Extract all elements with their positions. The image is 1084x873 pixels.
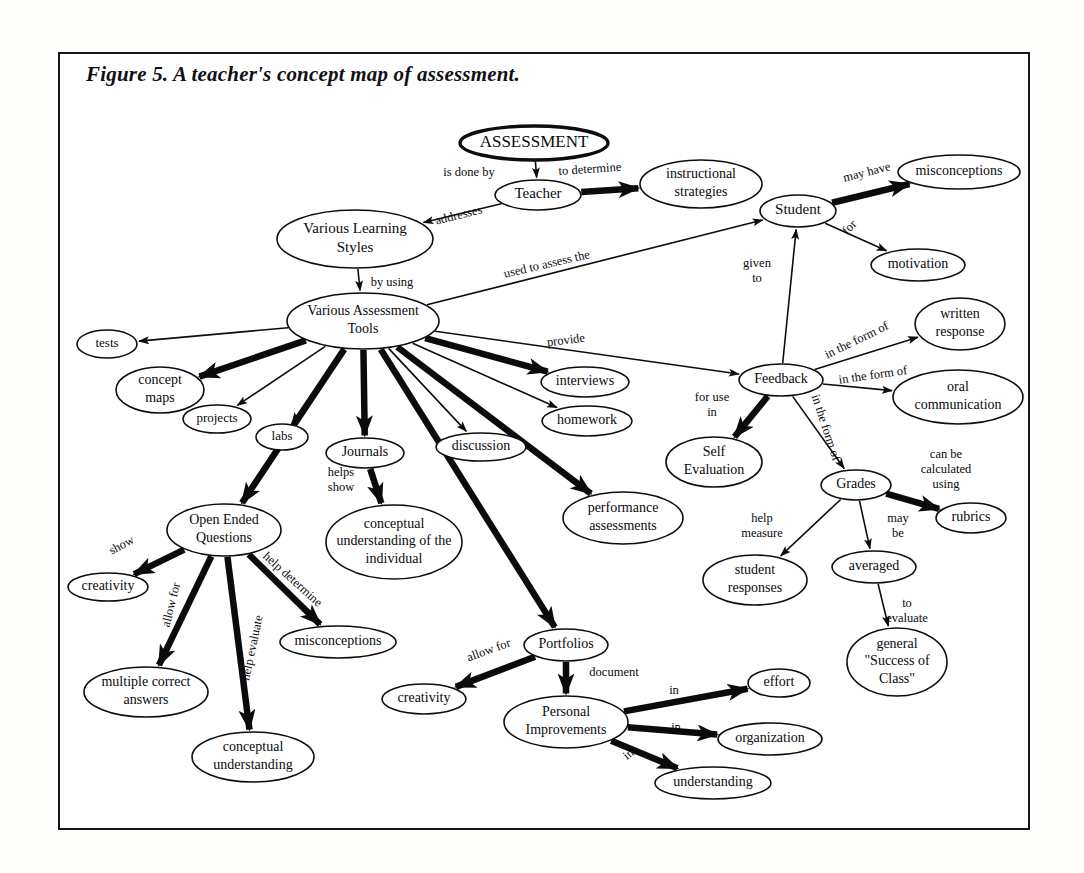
- node-label-line: Evaluation: [684, 462, 745, 477]
- edges-layer: [134, 161, 939, 768]
- edge-label-teacher-to-various_learning_styles: addresses: [434, 202, 484, 227]
- node-tests[interactable]: tests: [77, 330, 137, 358]
- edge-various_assessment_tools-to-student: [427, 220, 763, 305]
- node-journals[interactable]: Journals: [326, 438, 404, 468]
- node-performance_assessments[interactable]: performanceassessments: [563, 492, 683, 544]
- node-general_success_of_class[interactable]: general"Success ofClass": [847, 628, 947, 696]
- node-label-line: averaged: [849, 558, 900, 573]
- node-label-line: discussion: [452, 438, 510, 453]
- edge-label-feedback-to-written_response: in the form of: [822, 318, 891, 361]
- node-misconceptions_oeq[interactable]: misconceptions: [280, 626, 396, 658]
- edge-label-line: given: [743, 256, 772, 270]
- edge-label-line: for use: [695, 390, 730, 404]
- node-open_ended_questions[interactable]: Open EndedQuestions: [167, 504, 281, 556]
- node-label-line: assessments: [589, 518, 657, 533]
- edge-label-line: for: [839, 217, 860, 238]
- node-label-line: Various Learning: [303, 220, 407, 236]
- node-student[interactable]: Student: [760, 195, 836, 227]
- edge-label-line: in: [671, 720, 681, 734]
- node-instructional_strategies[interactable]: instructionalstrategies: [640, 160, 762, 208]
- node-label-line: oral: [947, 379, 969, 394]
- edge-various_assessment_tools-to-interviews: [425, 338, 547, 372]
- node-discussion[interactable]: discussion: [436, 433, 526, 461]
- node-label-line: Class": [879, 671, 915, 686]
- edge-label-feedback-to-grades: in the form of: [809, 393, 844, 464]
- edge-label-various_assessment_tools-to-feedback: provide: [546, 331, 586, 350]
- edge-label-line: provide: [546, 331, 586, 350]
- node-various_learning_styles[interactable]: Various LearningStyles: [277, 210, 433, 268]
- node-label-line: homework: [557, 412, 617, 427]
- edge-label-line: may have: [842, 159, 893, 184]
- node-grades[interactable]: Grades: [821, 470, 891, 500]
- node-averaged[interactable]: averaged: [832, 551, 916, 583]
- node-label-line: conceptual: [364, 516, 425, 531]
- node-labs[interactable]: labs: [256, 424, 308, 450]
- edge-label-line: to determine: [558, 160, 622, 178]
- node-label-line: projects: [196, 410, 237, 425]
- node-label-line: general: [876, 636, 917, 651]
- node-label-line: Questions: [196, 530, 252, 545]
- node-various_assessment_tools[interactable]: Various AssessmentTools: [287, 293, 439, 349]
- edge-label-line: be: [892, 526, 904, 540]
- node-understanding[interactable]: understanding: [655, 767, 771, 799]
- edge-grades-to-rubrics: [886, 494, 939, 509]
- edge-label-various_assessment_tools-to-student: used to assess the: [502, 247, 591, 281]
- edge-label-grades-to-rubrics: can becalculatedusing: [921, 447, 972, 491]
- node-oral_communication[interactable]: oralcommunication: [893, 370, 1023, 424]
- node-motivation[interactable]: motivation: [871, 249, 965, 281]
- node-label-line: instructional: [666, 166, 736, 181]
- edge-label-line: addresses: [434, 202, 484, 227]
- node-projects[interactable]: projects: [183, 405, 251, 433]
- node-label-line: written: [940, 306, 980, 321]
- edge-feedback-to-student: [783, 229, 796, 363]
- edge-various_assessment_tools-to-tests: [139, 328, 288, 341]
- node-teacher[interactable]: Teacher: [495, 180, 581, 210]
- edge-feedback-to-self_evaluation: [735, 396, 768, 437]
- node-feedback[interactable]: Feedback: [739, 364, 823, 396]
- edge-label-line: in: [669, 683, 679, 697]
- node-label-line: Open Ended: [189, 512, 259, 527]
- node-portfolios[interactable]: Portfolios: [524, 629, 608, 661]
- node-label-line: Grades: [836, 476, 876, 491]
- node-conceptual_understanding_individual[interactable]: conceptualunderstanding of theindividual: [326, 505, 462, 579]
- node-label-line: Feedback: [754, 371, 808, 386]
- node-label-line: student: [735, 562, 776, 577]
- node-student_responses[interactable]: studentresponses: [703, 555, 807, 605]
- edge-open_ended_questions-to-creativity_left: [134, 550, 184, 575]
- edge-label-averaged-to-general_success_of_class: toevaluate: [886, 596, 928, 625]
- edge-label-line: to: [752, 271, 762, 285]
- node-organization[interactable]: organization: [718, 723, 822, 755]
- edge-label-feedback-to-student: givento: [743, 256, 772, 285]
- node-written_response[interactable]: writtenresponse: [915, 298, 1005, 350]
- edge-label-line: show: [328, 480, 354, 494]
- node-effort[interactable]: effort: [748, 669, 810, 697]
- node-conceptual_understanding[interactable]: conceptualunderstanding: [192, 732, 314, 782]
- node-multiple_correct_answers[interactable]: multiple correctanswers: [84, 667, 208, 717]
- node-label-line: Student: [775, 201, 822, 217]
- node-misconceptions_top[interactable]: misconceptions: [898, 155, 1020, 189]
- node-label-line: maps: [145, 390, 175, 405]
- edge-label-personal_improvements-to-organization: in: [671, 720, 681, 734]
- node-label-line: rubrics: [952, 509, 991, 524]
- node-interviews[interactable]: interviews: [541, 367, 629, 397]
- node-personal_improvements[interactable]: PersonalImprovements: [504, 696, 628, 748]
- node-concept_maps[interactable]: conceptmaps: [116, 367, 204, 413]
- edge-grades-to-student_responses: [781, 499, 841, 555]
- concept-map-canvas: is done byto determineaddressesby usingu…: [58, 52, 1030, 830]
- node-creativity_left[interactable]: creativity: [68, 573, 148, 601]
- node-label-line: misconceptions: [915, 163, 1002, 178]
- node-label-line: motivation: [888, 256, 949, 271]
- node-label-line: conceptual: [223, 739, 284, 754]
- node-creativity_portfolio[interactable]: creativity: [382, 684, 466, 714]
- node-homework[interactable]: homework: [542, 406, 632, 436]
- edge-label-line: may: [887, 511, 909, 525]
- node-self_evaluation[interactable]: SelfEvaluation: [666, 437, 762, 487]
- edge-various_assessment_tools-to-portfolios: [381, 349, 555, 627]
- node-label-line: response: [936, 324, 985, 339]
- edge-various_learning_styles-to-various_assessment_tools: [358, 269, 360, 291]
- node-label-line: answers: [123, 692, 168, 707]
- node-assessment[interactable]: ASSESSMENT: [460, 126, 608, 160]
- edge-label-feedback-to-self_evaluation: for usein: [695, 390, 730, 419]
- node-rubrics[interactable]: rubrics: [936, 503, 1006, 533]
- edge-label-line: in the form of: [838, 363, 909, 387]
